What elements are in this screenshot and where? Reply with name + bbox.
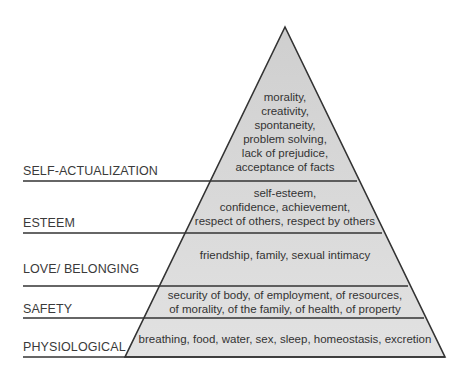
tier-line: morality,	[205, 90, 365, 104]
tier-text-safety: security of body, of employment, of reso…	[155, 288, 415, 316]
tier-line: self-esteem,	[185, 186, 385, 200]
tier-line: confidence, achievement,	[185, 200, 385, 214]
tier-line: creativity,	[205, 104, 365, 118]
tier-text-love-belonging: friendship, family, sexual intimacy	[185, 248, 385, 262]
tier-text-self-actualization: morality, creativity, spontaneity, probl…	[205, 90, 365, 174]
tier-text-physiological: breathing, food, water, sex, sleep, home…	[135, 332, 435, 346]
tier-line: lack of prejudice,	[205, 146, 365, 160]
label-safety: SAFETY	[23, 302, 72, 316]
label-love-belonging: LOVE/ BELONGING	[23, 262, 139, 276]
tier-line: problem solving,	[205, 132, 365, 146]
tier-text-esteem: self-esteem, confidence, achievement, re…	[185, 186, 385, 228]
label-esteem: ESTEEM	[23, 216, 75, 230]
tier-line: acceptance of facts	[205, 160, 365, 174]
tier-line: respect of others, respect by others	[185, 214, 385, 228]
tier-line: spontaneity,	[205, 118, 365, 132]
tier-line: of morality, of the family, of health, o…	[155, 302, 415, 316]
tier-line: security of body, of employment, of reso…	[155, 288, 415, 302]
tier-line: friendship, family, sexual intimacy	[185, 248, 385, 262]
maslow-pyramid-diagram: SELF-ACTUALIZATION ESTEEM LOVE/ BELONGIN…	[0, 0, 468, 380]
label-physiological: PHYSIOLOGICAL	[23, 340, 126, 354]
tier-line: breathing, food, water, sex, sleep, home…	[135, 332, 435, 346]
label-self-actualization: SELF-ACTUALIZATION	[23, 164, 158, 178]
